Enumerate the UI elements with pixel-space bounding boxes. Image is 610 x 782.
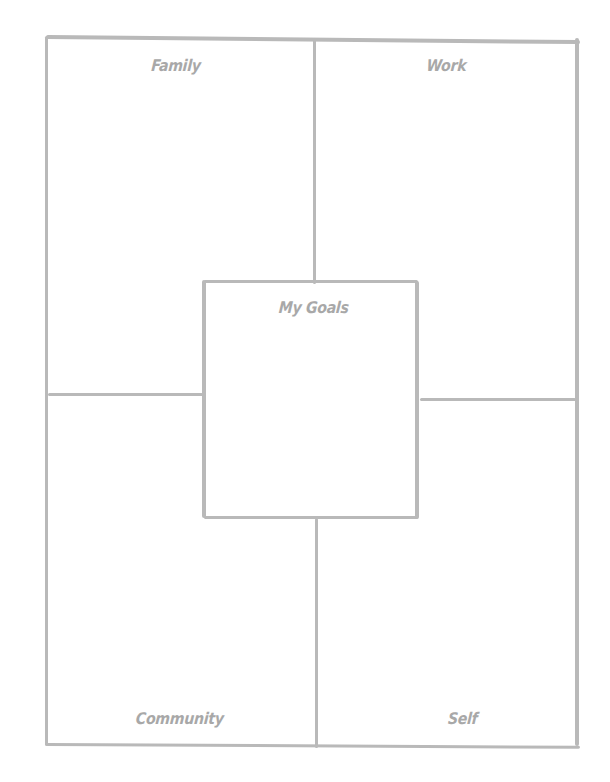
self-label: Self: [447, 709, 478, 728]
work-label: Work: [426, 56, 467, 75]
community-label: Community: [135, 709, 224, 728]
outer-frame-right: [575, 38, 579, 746]
outer-frame-left: [45, 36, 48, 746]
horizontal-divider-left: [48, 393, 203, 396]
center-box-right: [415, 281, 419, 519]
center-box-left: [202, 280, 206, 518]
my-goals-label: My Goals: [278, 298, 349, 317]
center-box-top: [204, 280, 418, 283]
goals-box[interactable]: [208, 284, 414, 514]
family-label: Family: [151, 56, 202, 75]
vertical-divider-bottom: [315, 518, 318, 748]
horizontal-divider-right: [420, 398, 576, 401]
center-box-bottom: [204, 516, 418, 519]
vertical-divider-top: [313, 38, 316, 284]
